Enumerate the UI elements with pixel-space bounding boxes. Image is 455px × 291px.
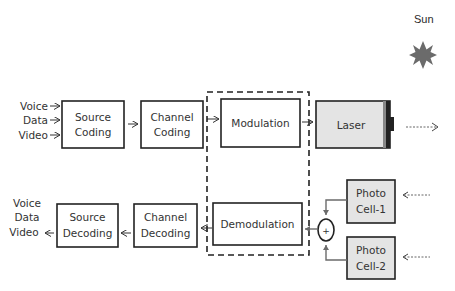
channel-coding-label-1: Channel bbox=[150, 111, 193, 123]
output-labels: Voice Data Video bbox=[9, 197, 41, 238]
photo-cell-1-label-2: Cell-1 bbox=[356, 203, 386, 215]
laser-lens bbox=[383, 101, 386, 148]
source-decoding-label-2: Decoding bbox=[63, 227, 113, 239]
source-coding-label-2: Coding bbox=[75, 126, 112, 138]
source-decoding-label-1: Source bbox=[69, 211, 105, 223]
channel-coding-label-2: Coding bbox=[154, 126, 191, 138]
input-video: Video bbox=[19, 129, 48, 141]
photo-cell-2-connector bbox=[326, 245, 347, 260]
plus-icon: + bbox=[322, 226, 330, 236]
channel-decoding-label-2: Decoding bbox=[141, 227, 191, 239]
output-voice: Voice bbox=[13, 197, 41, 209]
input-voice: Voice bbox=[20, 100, 48, 112]
source-coding-block: Source Coding bbox=[62, 101, 124, 148]
photo-cell-2-block: Photo Cell-2 bbox=[347, 237, 395, 279]
demodulation-block: Demodulation bbox=[213, 203, 302, 245]
sun-star-icon bbox=[409, 41, 437, 69]
channel-decoding-block: Channel Decoding bbox=[134, 204, 197, 247]
summing-junction: + bbox=[318, 219, 334, 241]
modulation-block: Modulation bbox=[221, 99, 300, 147]
photo-cell-2-label-2: Cell-2 bbox=[356, 260, 386, 272]
photo-cell-1-label-1: Photo bbox=[356, 187, 386, 199]
demodulation-label: Demodulation bbox=[221, 218, 295, 230]
input-data: Data bbox=[23, 114, 48, 126]
channel-coding-block: Channel Coding bbox=[141, 101, 203, 148]
photo-cell-2-label-1: Photo bbox=[356, 244, 386, 256]
laser-edge bbox=[386, 101, 390, 148]
sun: Sun bbox=[409, 13, 437, 69]
photo-cell-1-connector bbox=[326, 200, 347, 215]
laser-label: Laser bbox=[337, 119, 366, 131]
laser-tab bbox=[390, 117, 394, 131]
source-decoding-block: Source Decoding bbox=[57, 204, 118, 247]
output-video: Video bbox=[9, 226, 38, 238]
output-data: Data bbox=[14, 211, 39, 223]
channel-decoding-label-1: Channel bbox=[144, 211, 187, 223]
laser-block: Laser bbox=[316, 101, 394, 148]
modulation-label: Modulation bbox=[231, 117, 289, 129]
input-labels: Voice Data Video bbox=[19, 100, 60, 141]
photo-cell-1-block: Photo Cell-1 bbox=[347, 180, 395, 223]
optical-communication-diagram: Sun Voice Data Video Source Coding Chann… bbox=[0, 0, 455, 291]
sun-label: Sun bbox=[414, 13, 434, 25]
source-coding-label-1: Source bbox=[75, 111, 111, 123]
